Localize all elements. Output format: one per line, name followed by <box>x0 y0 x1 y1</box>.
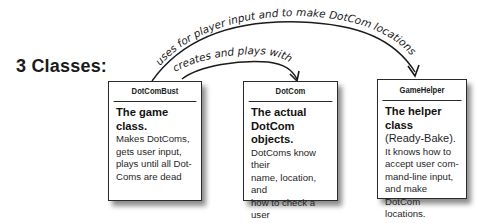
description-line: Makes DotComs, <box>116 133 195 146</box>
class-description: The actual DotCom objects. DotComs know … <box>244 102 337 223</box>
description-line: plays until all Dot- <box>116 158 195 171</box>
arrowhead-icon <box>290 71 299 81</box>
arrowhead-icon <box>408 65 419 76</box>
description-line: DotComs know their <box>251 147 331 172</box>
arrow-label-creates: creates and plays with <box>170 44 294 74</box>
class-lead: The game class. <box>116 106 195 133</box>
description-line: It knows how to <box>385 146 460 159</box>
description-line: name, location, and <box>251 172 331 197</box>
class-description: The helper class (Ready-Bake). It knows … <box>378 101 466 221</box>
arrow-label-uses: uses for player input and to make DotCom… <box>153 6 420 67</box>
class-name: DotComBust <box>114 82 197 102</box>
class-box-gamehelper: GameHelper The helper class (Ready-Bake)… <box>377 79 467 199</box>
class-lead: The actual <box>251 106 331 120</box>
arrow-creates-and-plays-with: creates and plays with <box>170 44 299 81</box>
class-name: GameHelper <box>382 80 461 101</box>
class-name: DotCom <box>249 82 333 102</box>
class-box-dotcom: DotCom The actual DotCom objects. DotCom… <box>243 81 338 201</box>
description-line: and make DotCom <box>385 183 460 208</box>
diagram-title: 3 Classes: <box>16 56 107 77</box>
arrow-uses-for-player-input: uses for player input and to make DotCom… <box>152 6 419 81</box>
description-line: accept user com- <box>385 158 460 171</box>
description-line: locations. <box>385 208 460 221</box>
class-lead: DotCom objects. <box>251 120 331 147</box>
class-lead-sub: (Ready-Bake). <box>385 132 460 146</box>
class-lead: The helper class <box>385 105 460 132</box>
description-line: gets user input, <box>116 146 195 159</box>
description-line: how to check a user <box>251 197 331 222</box>
class-description: The game class. Makes DotComs, gets user… <box>109 102 201 183</box>
class-box-dotcombust: DotComBust The game class. Makes DotComs… <box>108 81 202 201</box>
description-line: mand-line input, <box>385 171 460 184</box>
description-line: guess for a match. <box>251 222 331 223</box>
description-line: Coms are dead <box>116 171 195 184</box>
